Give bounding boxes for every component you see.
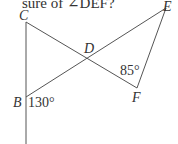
angle-b-value: 130° [28, 96, 55, 110]
label-b: B [13, 96, 22, 110]
label-d: D [84, 42, 94, 56]
segment-ef [137, 8, 166, 88]
label-e: E [163, 0, 172, 14]
label-f: F [132, 91, 141, 105]
angle-f-value: 85° [120, 64, 140, 78]
segment-be [26, 8, 166, 97]
segment-cf [26, 22, 137, 88]
label-c: C [19, 9, 28, 23]
